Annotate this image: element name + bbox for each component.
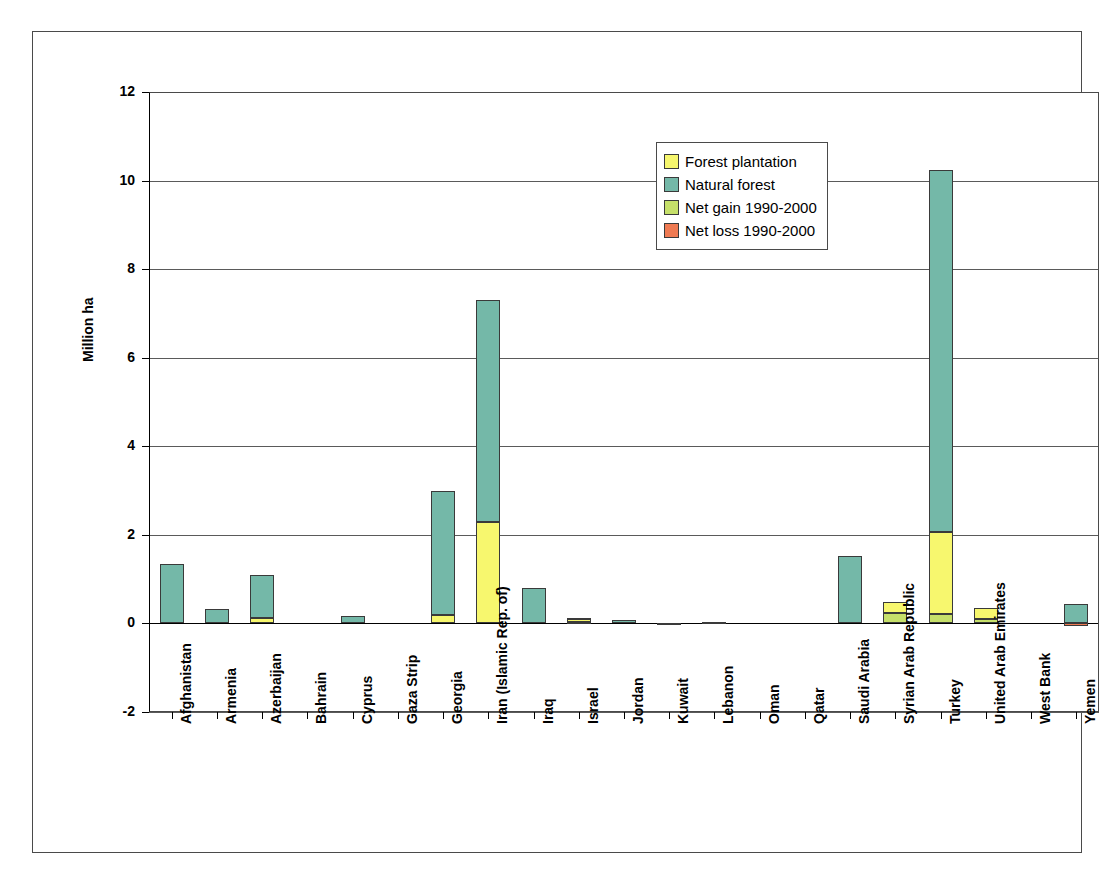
x-tick-mark <box>895 712 896 719</box>
y-tick-mark <box>142 535 149 536</box>
bar-group <box>929 92 953 712</box>
bar-group <box>431 92 455 712</box>
chart-page: Million ha -2024681012 AfghanistanArmeni… <box>0 0 1115 885</box>
x-axis-label: Cyprus <box>359 676 375 724</box>
bar-segment <box>567 618 591 620</box>
x-tick-mark <box>624 712 625 719</box>
y-tick-label: -2 <box>91 703 135 719</box>
bar-group <box>522 92 546 712</box>
y-tick-label: 12 <box>91 83 135 99</box>
x-axis-label: Yemen <box>1082 679 1098 724</box>
x-axis-label: Armenia <box>223 668 239 724</box>
x-tick-mark <box>172 712 173 719</box>
legend-item: Forest plantation <box>664 150 817 173</box>
legend-label: Forest plantation <box>685 153 797 170</box>
bar-group <box>341 92 365 712</box>
y-tick-label: 4 <box>91 437 135 453</box>
bar-segment <box>838 556 862 623</box>
legend-label: Net gain 1990-2000 <box>685 199 817 216</box>
plot-area <box>149 92 1099 712</box>
bar-segment <box>929 532 953 614</box>
x-axis-label: Azerbaijan <box>268 653 284 724</box>
chart-legend: Forest plantationNatural forestNet gain … <box>656 142 828 250</box>
x-axis-label: Georgia <box>449 671 465 724</box>
bar-segment <box>929 170 953 532</box>
bar-segment <box>657 623 681 625</box>
bar-group <box>1064 92 1088 712</box>
x-axis-label: Syrian Arab Republic <box>901 583 917 724</box>
x-axis-label: Saudi Arabia <box>856 639 872 724</box>
bar-group <box>567 92 591 712</box>
x-axis-label: Qatar <box>811 687 827 724</box>
bar-segment <box>476 300 500 521</box>
figure-frame: Million ha -2024681012 AfghanistanArmeni… <box>32 31 1082 853</box>
bar-segment <box>250 575 274 618</box>
legend-swatch-icon <box>664 177 679 192</box>
x-tick-mark <box>488 712 489 719</box>
y-tick-label: 0 <box>91 614 135 630</box>
x-tick-mark <box>805 712 806 719</box>
bar-segment <box>567 619 591 621</box>
x-axis-label: United Arab Emirates <box>992 582 1008 724</box>
bar-segment-loss <box>1064 623 1088 626</box>
y-tick-mark <box>142 92 149 93</box>
bar-group <box>838 92 862 712</box>
x-tick-mark <box>986 712 987 719</box>
x-tick-mark <box>1076 712 1077 719</box>
x-tick-mark <box>353 712 354 719</box>
bar-group <box>1019 92 1043 712</box>
bar-group <box>386 92 410 712</box>
y-tick-label: 2 <box>91 526 135 542</box>
x-axis-label: Oman <box>766 684 782 724</box>
x-axis-label: Turkey <box>947 679 963 724</box>
bar-segment <box>431 491 455 615</box>
bar-group <box>160 92 184 712</box>
x-tick-mark <box>760 712 761 719</box>
y-tick-mark <box>142 358 149 359</box>
x-axis-label: Afghanistan <box>178 643 194 724</box>
x-tick-mark <box>1031 712 1032 719</box>
bar-segment <box>567 622 591 624</box>
y-tick-label: 10 <box>91 172 135 188</box>
x-axis-label: Gaza Strip <box>404 655 420 724</box>
legend-item: Net gain 1990-2000 <box>664 196 817 219</box>
x-axis-label: Israel <box>585 687 601 724</box>
bar-segment <box>612 620 636 624</box>
x-tick-mark <box>443 712 444 719</box>
bar-group <box>205 92 229 712</box>
x-tick-mark <box>669 712 670 719</box>
bar-segment <box>522 588 546 623</box>
bar-segment <box>250 618 274 624</box>
x-tick-mark <box>941 712 942 719</box>
y-tick-label: 6 <box>91 349 135 365</box>
x-axis-label: Bahrain <box>313 672 329 724</box>
bar-segment <box>160 564 184 624</box>
x-axis-label: Iraq <box>540 698 556 724</box>
bar-segment <box>205 609 229 624</box>
x-tick-mark <box>534 712 535 719</box>
bar-group <box>250 92 274 712</box>
x-tick-mark <box>850 712 851 719</box>
x-axis-label: Jordan <box>630 677 646 724</box>
legend-item: Natural forest <box>664 173 817 196</box>
y-tick-mark <box>142 181 149 182</box>
legend-swatch-icon <box>664 223 679 238</box>
x-tick-mark <box>217 712 218 719</box>
x-axis-label: Iran (Islamic Rep. of) <box>494 586 510 724</box>
bar-group <box>295 92 319 712</box>
x-tick-mark <box>307 712 308 719</box>
y-tick-mark <box>142 712 149 713</box>
x-tick-mark <box>579 712 580 719</box>
y-tick-mark <box>142 446 149 447</box>
bar-segment <box>702 622 726 624</box>
y-tick-mark <box>142 623 149 624</box>
x-tick-mark <box>398 712 399 719</box>
y-tick-mark <box>142 269 149 270</box>
legend-item: Net loss 1990-2000 <box>664 219 817 242</box>
bar-segment <box>929 614 953 624</box>
legend-swatch-icon <box>664 154 679 169</box>
x-axis-label: Kuwait <box>675 678 691 724</box>
legend-swatch-icon <box>664 200 679 215</box>
x-tick-mark <box>262 712 263 719</box>
legend-label: Natural forest <box>685 176 775 193</box>
